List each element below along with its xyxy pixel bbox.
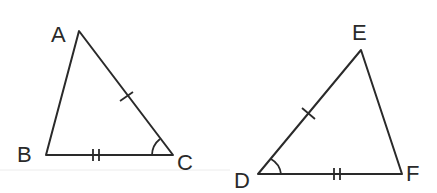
triangle-abc: A B C	[17, 22, 193, 175]
vertex-label-a: A	[51, 22, 66, 47]
triangle-def: E D F	[234, 20, 419, 193]
vertex-label-d: D	[234, 168, 250, 193]
angle-arc-d	[271, 159, 281, 174]
triangle-abc-outline	[46, 31, 173, 155]
triangle-def-outline	[258, 50, 402, 174]
vertex-label-e: E	[352, 20, 367, 45]
vertex-label-b: B	[17, 142, 32, 167]
vertex-label-f: F	[406, 161, 419, 186]
vertex-label-c: C	[177, 150, 193, 175]
angle-arc-c	[152, 139, 160, 155]
triangles-diagram: A B C E D F	[0, 0, 437, 193]
